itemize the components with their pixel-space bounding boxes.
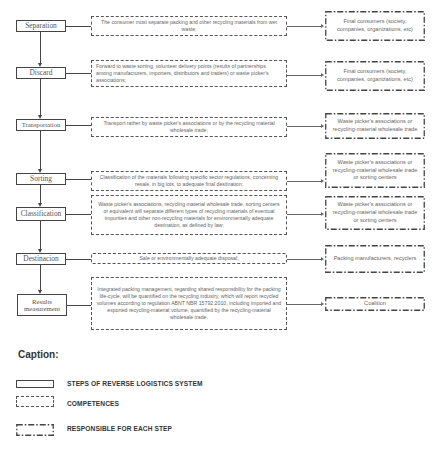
competence-results-measurement: Integrated packing management, regarding…: [91, 277, 287, 330]
arrow-right-icon: [321, 24, 324, 28]
connector-line: [287, 259, 321, 260]
step-results-measurement: Results measurement: [17, 294, 67, 316]
connector-line: [287, 181, 321, 182]
competence-sorting: Classification of the materials followin…: [91, 171, 287, 191]
competence-destinacion: Sale or environmentally adequate disposa…: [91, 253, 287, 264]
connector-line: [66, 259, 91, 260]
flow-line: [40, 265, 41, 290]
responsible-label: Waste picker's associations or recycling…: [331, 159, 419, 182]
responsible-label: Final consumers (society, companies, org…: [331, 18, 419, 34]
dash-dot-border: [16, 424, 54, 436]
connector-line: [287, 214, 321, 215]
legend-dash-dot-box-icon: [16, 421, 54, 433]
responsible-separation: Final consumers (society, companies, org…: [325, 11, 425, 41]
competence-transportation: Transport rather by waste picker's assoc…: [91, 117, 287, 137]
flow-line: [40, 221, 41, 249]
responsible-discard: Final consumers (society, companies, org…: [325, 61, 425, 91]
responsible-results-measurement: Coalition: [325, 297, 425, 311]
arrow-right-icon: [321, 179, 324, 183]
legend-label-competences: COMPETENCES: [67, 400, 119, 407]
responsible-transportation: Waste picker's associations or recycling…: [325, 113, 425, 139]
connector-line: [287, 126, 321, 127]
arrow-right-icon: [321, 212, 324, 216]
arrow-right-icon: [321, 124, 324, 128]
responsible-sorting: Waste picker's associations or recycling…: [325, 153, 425, 188]
caption-title: Caption:: [18, 349, 59, 360]
step-sorting: Sorting: [16, 173, 66, 185]
connector-line: [66, 73, 91, 74]
legend-dashed-box-icon: [16, 396, 54, 407]
responsible-label: Final consumers (society, companies, org…: [331, 68, 419, 84]
flow-line: [40, 184, 41, 203]
step-classification: Classification: [16, 207, 66, 221]
legend-label-steps: STEPS OF REVERSE LOGISTICS SYSTEM: [67, 380, 203, 387]
flow-line: [40, 78, 41, 115]
step-destinacion: Destinacion: [16, 253, 66, 265]
connector-line: [66, 125, 91, 126]
connector-line: [287, 304, 321, 305]
legend-label-responsible: RESPONSIBLE FOR EACH STEP: [67, 425, 172, 432]
responsible-label: Waste picker's associations or recycling…: [331, 118, 419, 134]
responsible-label: Waste picker's associations or recycling…: [331, 201, 419, 224]
connector-line: [66, 214, 91, 215]
flow-line: [40, 31, 41, 63]
responsible-label: Coalition: [364, 300, 386, 308]
arrow-right-icon: [321, 257, 324, 261]
step-transportation: Transportation: [16, 119, 66, 131]
arrow-right-icon: [321, 73, 324, 77]
legend-solid-box-icon: [16, 380, 54, 388]
competence-separation: The consumer must separate packing and o…: [91, 16, 287, 36]
arrow-right-icon: [321, 302, 324, 306]
connector-line: [67, 305, 91, 306]
step-discard: Discard: [16, 67, 66, 79]
connector-line: [287, 75, 321, 76]
competence-classification: Waste picker's associations, recycling m…: [91, 195, 287, 235]
connector-line: [287, 26, 321, 27]
step-separation: Separation: [16, 20, 66, 32]
responsible-destinacion: Packing manufacturers, recyclers: [325, 245, 425, 273]
flow-line: [40, 130, 41, 169]
responsible-label: Packing manufacturers, recyclers: [334, 255, 417, 263]
competence-discard: Forward to waste sorting, volunteer deli…: [91, 60, 287, 87]
connector-line: [66, 26, 91, 27]
responsible-classification: Waste picker's associations or recycling…: [325, 196, 425, 230]
connector-line: [66, 179, 91, 180]
